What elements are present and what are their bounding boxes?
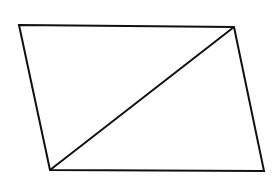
parallelogram-diagram	[0, 0, 277, 177]
diagonal-line	[50, 27, 234, 170]
